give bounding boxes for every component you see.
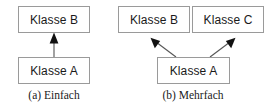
- class-box-klasse-b-einfach[interactable]: Klasse B: [18, 6, 90, 33]
- class-box-klasse-a-einfach[interactable]: Klasse A: [18, 57, 90, 84]
- class-box-label: Klasse B: [30, 14, 78, 26]
- edge-b-sub-to-b-super-c: [210, 38, 236, 57]
- class-box-label: Klasse B: [130, 14, 178, 26]
- edge-b-sub-to-b-super-b: [151, 38, 177, 57]
- class-box-klasse-b-mehrfach[interactable]: Klasse B: [118, 6, 190, 33]
- class-box-klasse-c-mehrfach[interactable]: Klasse C: [192, 6, 264, 33]
- edge-a-sub-to-a-super: [50, 33, 59, 58]
- class-box-klasse-a-mehrfach[interactable]: Klasse A: [157, 57, 230, 84]
- inheritance-figure: Klasse B Klasse A (a) Einfach Klasse B K…: [0, 0, 272, 111]
- class-box-label: Klasse A: [170, 65, 218, 77]
- caption-einfach: (a) Einfach: [4, 90, 104, 102]
- caption-mehrfach: (b) Mehrfach: [143, 90, 243, 102]
- class-box-label: Klasse A: [30, 65, 78, 77]
- class-box-label: Klasse C: [204, 14, 253, 26]
